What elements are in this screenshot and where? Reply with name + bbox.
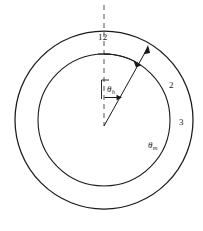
theta-h-glyph: θ: [107, 84, 111, 94]
theta-m-arc: [104, 54, 139, 64]
label-region-two: 2: [169, 81, 174, 90]
theta-m-subscript: m: [153, 144, 158, 151]
inner-circle: [38, 54, 170, 186]
outer-circle: [15, 31, 193, 209]
theta-m-glyph: θ: [148, 140, 152, 150]
label-theta-h: θh: [107, 85, 115, 95]
theta-h-subscript: h: [112, 88, 115, 95]
label-theta-m: θm: [148, 141, 157, 151]
clock-angle-diagram: 12 2 3 θh θm: [0, 0, 203, 231]
hand-ray-arrowhead: [144, 45, 151, 54]
label-region-three: 3: [179, 118, 184, 127]
label-twelve: 12: [98, 33, 107, 42]
